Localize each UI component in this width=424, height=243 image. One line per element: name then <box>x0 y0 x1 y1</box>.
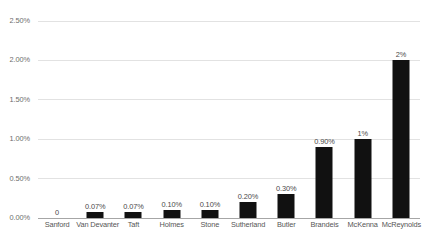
bar[interactable] <box>278 194 295 218</box>
chart-title-clipped <box>0 0 424 9</box>
bar-group[interactable]: 0 <box>38 21 76 218</box>
bars-layer: 00.07%0.07%0.10%0.10%0.20%0.30%0.90%1%2% <box>38 21 420 218</box>
bar[interactable] <box>392 60 409 218</box>
bar-value-label: 0.90% <box>314 138 334 145</box>
bar-value-label: 0.10% <box>200 201 220 208</box>
bar-group[interactable]: 0.30% <box>267 21 305 218</box>
y-axis-tick-label: 2.00% <box>0 56 30 63</box>
y-axis-tick-label: 0.00% <box>0 214 30 221</box>
bar-group[interactable]: 1% <box>344 21 382 218</box>
bar-value-label: 0.30% <box>276 185 296 192</box>
bar[interactable] <box>354 139 371 218</box>
bar-value-label: 0.07% <box>123 203 143 210</box>
bar-value-label: 0 <box>55 209 59 216</box>
bar-group[interactable]: 0.07% <box>114 21 152 218</box>
bar[interactable] <box>163 210 180 218</box>
x-axis-tick-label: Stone <box>191 221 229 228</box>
bar[interactable] <box>316 147 333 218</box>
x-axis-tick-label: Sutherland <box>229 221 267 228</box>
bar-value-label: 1% <box>357 130 367 137</box>
x-axis-tick-label: McReynolds <box>382 221 420 228</box>
x-axis-tick-label: Taft <box>114 221 152 228</box>
x-axis-tick-label: Brandeis <box>305 221 343 228</box>
x-axis-tick-label: Sanford <box>38 221 76 228</box>
bar-value-label: 0.07% <box>85 203 105 210</box>
x-axis-tick-label: McKenna <box>344 221 382 228</box>
bar-group[interactable]: 0.20% <box>229 21 267 218</box>
x-axis-tick-label: Butler <box>267 221 305 228</box>
x-axis-labels: SanfordVan DevanterTaftHolmesStoneSuther… <box>38 221 420 237</box>
y-axis-tick-label: 0.50% <box>0 175 30 182</box>
bar[interactable] <box>240 202 257 218</box>
bar[interactable] <box>201 210 218 218</box>
y-axis-tick-label: 2.50% <box>0 17 30 24</box>
bar-group[interactable]: 0.10% <box>191 21 229 218</box>
bar-group[interactable]: 0.10% <box>153 21 191 218</box>
bar[interactable] <box>87 212 104 218</box>
bar-chart: 2.50%2.00%1.50%1.00%0.50%0.00% 00.07%0.0… <box>0 0 424 243</box>
bar-value-label: 0.20% <box>238 193 258 200</box>
bar-group[interactable]: 0.90% <box>305 21 343 218</box>
bar-group[interactable]: 0.07% <box>76 21 114 218</box>
y-axis-tick-label: 1.50% <box>0 96 30 103</box>
y-axis-tick-label: 1.00% <box>0 135 30 142</box>
bar-value-label: 0.10% <box>161 201 181 208</box>
bar[interactable] <box>125 212 142 218</box>
bar-group[interactable]: 2% <box>382 21 420 218</box>
bar-value-label: 2% <box>396 51 406 58</box>
x-axis-tick-label: Van Devanter <box>76 221 114 228</box>
x-axis-tick-label: Holmes <box>153 221 191 228</box>
